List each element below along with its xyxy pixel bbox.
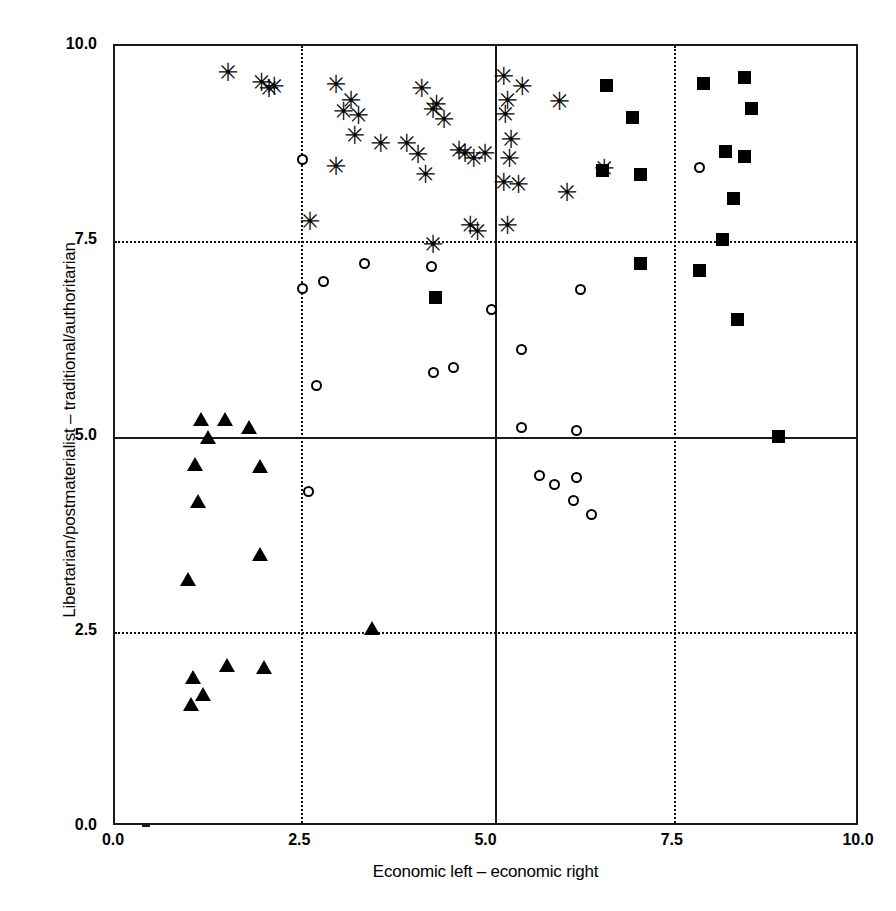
asterisk-icon: ✳ <box>423 232 441 258</box>
asterisk-icon: ✳ <box>326 154 344 180</box>
asterisk-icon: ✳ <box>501 127 519 153</box>
data-point-filled-triangle <box>252 459 268 473</box>
x-tick-label: 0.0 <box>83 831 143 849</box>
asterisk-icon: ✳ <box>467 219 485 245</box>
gridline-vertical <box>301 46 303 823</box>
data-point-open-circle <box>568 495 579 506</box>
y-tick-mark <box>142 825 150 827</box>
data-point-filled-square <box>731 313 744 326</box>
data-point-filled-square <box>697 77 710 90</box>
data-point-filled-triangle <box>193 412 209 426</box>
asterisk-icon: ✳ <box>370 131 388 157</box>
plot-inner: ✳✳✳✳✳✳✳✳✳✳✳✳✳✳✳✳✳✳✳✳✳✳✳✳✳✳✳✳✳✳✳✳✳✳✳✳✳✳ <box>115 46 856 823</box>
asterisk-icon: ✳ <box>415 162 433 188</box>
asterisk-icon: ✳ <box>475 141 493 167</box>
asterisk-icon: ✳ <box>495 102 513 128</box>
asterisk-icon: ✳ <box>512 74 530 100</box>
data-point-filled-square <box>626 111 639 124</box>
data-point-open-circle <box>303 486 314 497</box>
asterisk-icon: ✳ <box>326 72 344 98</box>
legend-clipped <box>600 0 860 10</box>
data-point-filled-triangle <box>217 412 233 426</box>
data-point-filled-square <box>738 150 751 163</box>
asterisk-icon: ✳ <box>251 70 269 96</box>
data-point-open-circle <box>694 162 705 173</box>
data-point-filled-square <box>745 102 758 115</box>
reference-line-vertical <box>495 46 497 823</box>
asterisk-icon: ✳ <box>499 146 517 172</box>
data-point-open-circle <box>586 509 597 520</box>
asterisk-icon: ✳ <box>218 60 236 86</box>
data-point-open-circle <box>428 367 439 378</box>
data-point-filled-triangle <box>180 572 196 586</box>
y-tick-label: 10.0 <box>37 35 97 53</box>
x-tick-label: 2.5 <box>269 831 329 849</box>
asterisk-icon: ✳ <box>464 146 482 172</box>
data-point-filled-square <box>596 164 609 177</box>
x-tick-label: 7.5 <box>642 831 702 849</box>
data-point-open-circle <box>571 425 582 436</box>
asterisk-icon: ✳ <box>411 76 429 102</box>
y-tick-label: 7.5 <box>37 230 97 248</box>
data-point-open-circle <box>426 261 437 272</box>
x-tick-label: 5.0 <box>456 831 516 849</box>
asterisk-icon: ✳ <box>497 88 515 114</box>
data-point-filled-square <box>634 168 647 181</box>
asterisk-icon: ✳ <box>264 74 282 100</box>
asterisk-icon: ✳ <box>434 107 452 133</box>
gridline-horizontal <box>115 241 856 243</box>
data-point-open-circle <box>571 472 582 483</box>
x-tick-label: 10.0 <box>828 831 888 849</box>
data-point-open-circle <box>516 422 527 433</box>
data-point-filled-triangle <box>241 420 257 434</box>
gridline-horizontal <box>115 632 856 634</box>
y-tick-label: 2.5 <box>37 621 97 639</box>
data-point-filled-triangle <box>183 697 199 711</box>
data-point-filled-square <box>719 145 732 158</box>
data-point-open-circle <box>549 479 560 490</box>
data-point-open-circle <box>318 276 329 287</box>
data-point-open-circle <box>311 380 322 391</box>
data-point-filled-triangle <box>364 621 380 635</box>
data-point-filled-square <box>634 257 647 270</box>
data-point-filled-square <box>600 79 613 92</box>
asterisk-icon: ✳ <box>557 180 575 206</box>
data-point-open-circle <box>575 284 586 295</box>
data-point-open-circle <box>534 470 545 481</box>
data-point-open-circle <box>297 154 308 165</box>
data-point-filled-triangle <box>185 670 201 684</box>
y-axis-ticks: 0.02.55.07.510.0 <box>35 44 97 825</box>
asterisk-icon: ✳ <box>408 142 426 168</box>
asterisk-icon: ✳ <box>460 213 478 239</box>
asterisk-icon: ✳ <box>300 209 318 235</box>
x-axis-ticks: 0.02.55.07.510.0 <box>113 831 858 855</box>
asterisk-icon: ✳ <box>423 97 441 123</box>
data-point-filled-triangle <box>187 457 203 471</box>
data-point-filled-square <box>738 71 751 84</box>
asterisk-icon: ✳ <box>397 131 415 157</box>
data-point-filled-triangle <box>252 547 268 561</box>
asterisk-icon: ✳ <box>549 89 567 115</box>
plot-area: ✳✳✳✳✳✳✳✳✳✳✳✳✳✳✳✳✳✳✳✳✳✳✳✳✳✳✳✳✳✳✳✳✳✳✳✳✳✳ <box>113 44 858 825</box>
data-point-open-circle <box>448 362 459 373</box>
data-point-filled-square <box>716 233 729 246</box>
x-axis-title: Economic left – economic right <box>113 862 858 882</box>
asterisk-icon: ✳ <box>341 88 359 114</box>
asterisk-icon: ✳ <box>348 103 366 129</box>
asterisk-icon: ✳ <box>497 213 515 239</box>
asterisk-icon: ✳ <box>426 92 444 118</box>
data-point-open-circle <box>516 344 527 355</box>
data-point-filled-square <box>429 291 442 304</box>
data-point-filled-square <box>693 264 706 277</box>
data-point-open-circle <box>297 283 308 294</box>
data-point-filled-triangle <box>195 687 211 701</box>
asterisk-icon: ✳ <box>344 123 362 149</box>
data-point-filled-square <box>727 192 740 205</box>
y-tick-label: 5.0 <box>37 426 97 444</box>
asterisk-icon: ✳ <box>259 76 277 102</box>
asterisk-icon: ✳ <box>455 141 473 167</box>
asterisk-icon: ✳ <box>333 99 351 125</box>
data-point-filled-triangle <box>190 494 206 508</box>
asterisk-icon: ✳ <box>449 138 467 164</box>
scatter-plot-figure: Libertarian/postmaterialist – traditiona… <box>0 0 896 911</box>
